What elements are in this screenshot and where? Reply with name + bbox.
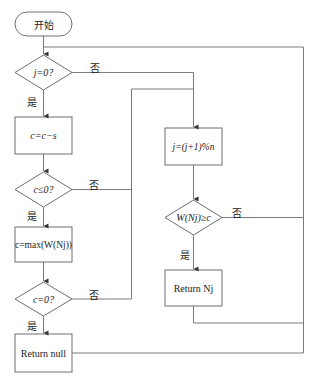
edge-label-no-c-eq: 否 — [89, 287, 99, 302]
decision-j-zero-label: j=0? — [15, 55, 72, 90]
process-return-nj-label: Return Nj — [165, 270, 222, 306]
start-label: 开始 — [15, 12, 72, 36]
edge-label-yes-j: 是 — [27, 94, 37, 109]
edge-label-no-w: 否 — [232, 205, 242, 220]
edge-label-no-c-le: 否 — [89, 177, 99, 192]
process-c-minus-s-label: c=c−s — [15, 117, 72, 154]
edge-label-yes-c-eq: 是 — [27, 318, 37, 333]
process-update-j-label: j=(j+1)%n — [165, 128, 222, 165]
process-return-null-label: Return null — [15, 334, 72, 372]
flowchart-canvas: 开始 j=0? c=c−s c≤0? c=max(W(Nj)) c=0? Ret… — [0, 0, 313, 384]
edge-label-yes-w: 是 — [180, 247, 190, 262]
decision-c-le-zero-label: c≤0? — [15, 172, 72, 207]
edge-label-no-j: 否 — [90, 60, 100, 75]
edge-label-yes-c-le: 是 — [27, 208, 37, 223]
process-c-max-label: c=max(W(Nj)) — [15, 227, 72, 262]
decision-w-ge-c-label: W(Nj)≥c — [165, 200, 222, 235]
decision-c-eq-zero-label: c=0? — [15, 282, 72, 316]
